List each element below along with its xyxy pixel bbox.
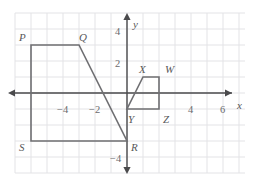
coordinate-plane-figure: PQRSXWZY−4−24642−4xy — [0, 0, 260, 180]
y-tick-label-2: 2 — [115, 59, 120, 70]
vertex-label-x: X — [139, 64, 146, 75]
y-tick-label-neg4: −4 — [110, 154, 121, 165]
vertex-label-y: Y — [128, 114, 134, 125]
vertex-label-p: P — [19, 32, 26, 43]
x-axis-name: x — [237, 100, 242, 111]
figure-canvas — [0, 0, 260, 180]
y-axis-name: y — [133, 19, 138, 30]
x-tick-label-neg4: −4 — [57, 105, 68, 116]
y-axis-arrow-top — [123, 13, 130, 20]
x-tick-label-neg2: −2 — [89, 105, 100, 116]
vertex-label-q: Q — [79, 32, 87, 43]
vertex-label-w: W — [165, 64, 174, 75]
vertex-label-r: R — [131, 142, 138, 153]
x-tick-label-4: 4 — [188, 105, 193, 116]
y-tick-label-4: 4 — [115, 27, 120, 38]
x-axis-arrow-right — [225, 89, 232, 96]
x-axis-arrow-left — [8, 89, 15, 96]
vertex-label-z: Z — [163, 114, 169, 125]
x-tick-label-6: 6 — [220, 105, 225, 116]
vertex-label-s: S — [19, 142, 25, 153]
